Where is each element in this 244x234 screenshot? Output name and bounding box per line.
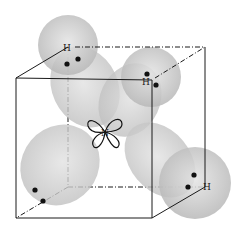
h-sphere-top-right — [121, 47, 181, 107]
ammonia-diagram: N H H H — [0, 0, 244, 234]
orbital-lobes — [4, 15, 231, 222]
electron-dot — [153, 82, 158, 87]
electron-dot — [32, 187, 37, 192]
h-sphere-bottom-right — [159, 147, 231, 219]
electron-dot — [185, 184, 190, 189]
electron-dot — [144, 71, 149, 76]
nitrogen-label: N — [101, 128, 109, 138]
hydrogen-label-top-right: H — [142, 77, 150, 87]
electron-dot — [40, 198, 45, 203]
hydrogen-label-top-left: H — [63, 43, 71, 53]
electron-dot — [191, 172, 196, 177]
electron-dot — [64, 61, 69, 66]
electron-dot — [75, 56, 80, 61]
hydrogen-label-bottom-right: H — [203, 182, 211, 192]
